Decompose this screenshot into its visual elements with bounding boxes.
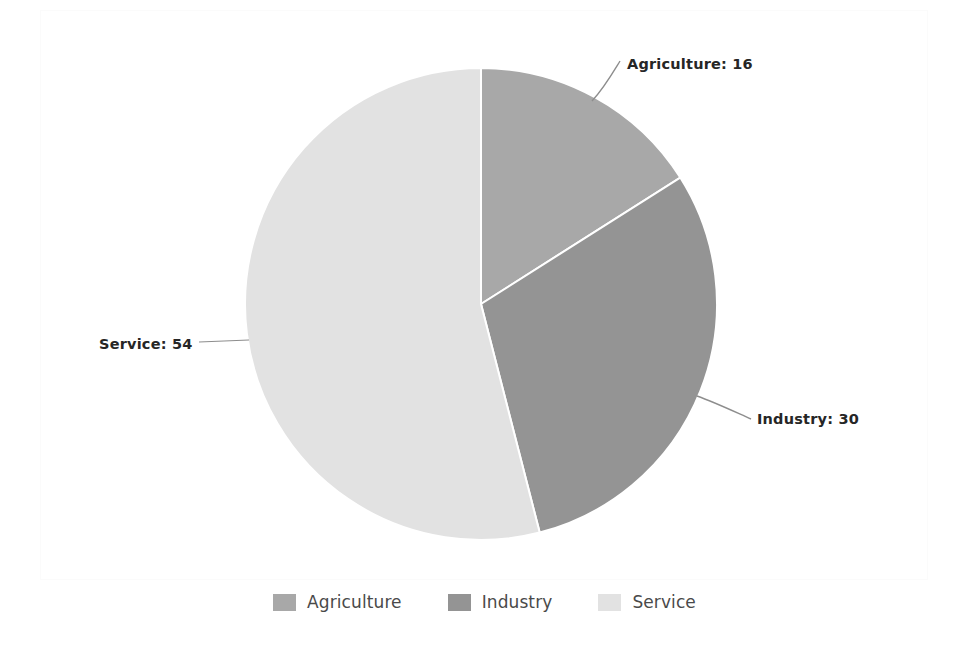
legend-item-industry[interactable]: Industry [448,592,553,612]
leader-line-agriculture [592,61,620,101]
legend-swatch-industry [448,594,471,611]
slice-callout-agriculture: Agriculture: 16 [627,56,753,72]
chart-legend: AgricultureIndustryService [0,592,969,612]
legend-swatch-service [598,594,621,611]
pie-graphic [0,0,969,658]
legend-item-service[interactable]: Service [598,592,696,612]
legend-item-agriculture[interactable]: Agriculture [273,592,402,612]
legend-label-industry: Industry [482,592,553,612]
pie-chart-figure: Agriculture: 16 Industry: 30 Service: 54… [0,0,969,658]
pie-slice-group [245,68,717,540]
slice-callout-industry: Industry: 30 [757,411,859,427]
legend-swatch-agriculture [273,594,296,611]
slice-callout-service: Service: 54 [99,336,193,352]
leader-line-service [199,340,249,342]
legend-label-service: Service [632,592,696,612]
legend-label-agriculture: Agriculture [307,592,402,612]
leader-line-industry [697,396,751,419]
